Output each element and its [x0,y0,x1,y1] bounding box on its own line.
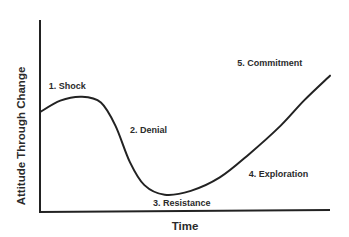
change-curve-chart: 1. Shock2. Denial3. Resistance4. Explora… [0,0,349,237]
stage-label: 3. Resistance [153,198,211,208]
x-axis [39,210,330,212]
stage-label: 2. Denial [130,125,167,135]
stage-label: 4. Exploration [249,169,309,179]
x-axis-label: Time [172,220,199,232]
stage-label: 1. Shock [49,81,87,91]
stage-label: 5. Commitment [237,58,302,68]
y-axis-label: Attitude Through Change [15,67,27,206]
